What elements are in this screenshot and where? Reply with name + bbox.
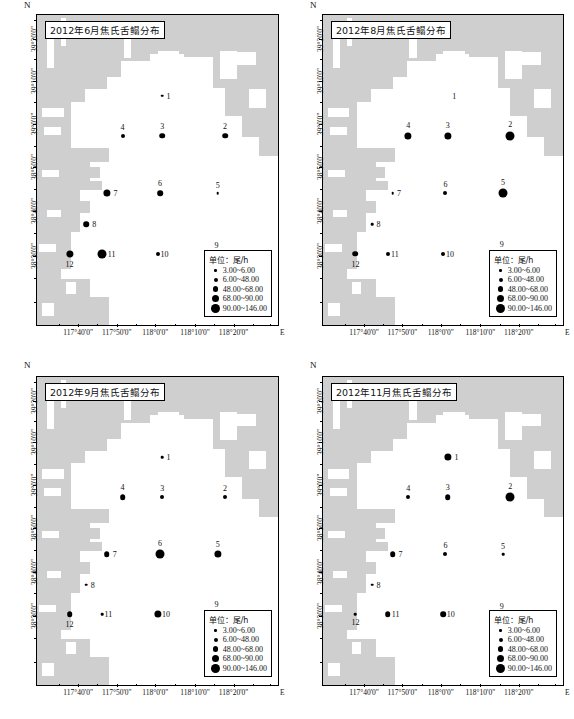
axis-tick-x — [519, 684, 520, 687]
station-dot — [66, 250, 73, 257]
water-channel — [409, 37, 416, 59]
legend-row: 6.00~48.00 — [494, 275, 552, 285]
land-mass — [347, 562, 376, 574]
axis-label-y: 39°20'0" — [316, 388, 325, 414]
axis-tick-y-minor — [320, 507, 322, 508]
station-dot — [161, 94, 164, 97]
station-dot — [386, 252, 390, 256]
axis-label-y: 39°10'0" — [30, 429, 39, 455]
station-label: 4 — [121, 483, 125, 492]
water-channel — [330, 488, 347, 496]
land-mass — [527, 116, 563, 138]
legend-label: 6.00~48.00 — [223, 635, 259, 644]
axis-tick-x-minor — [500, 324, 501, 326]
legend-row: 48.00~68.00 — [209, 285, 267, 295]
axis-tick-x — [402, 684, 403, 687]
axis-label-y: 38°50'0" — [316, 154, 325, 180]
axis-label-y: 39°0'0" — [316, 474, 325, 496]
axis-tick-y-minor — [34, 464, 36, 465]
axis-label-x: 118°20'0" — [219, 328, 249, 337]
legend-label: 3.00~6.00 — [508, 626, 540, 635]
station-dot — [506, 493, 515, 502]
land-mass — [61, 297, 109, 325]
axis-label-x: 117°50'0" — [102, 328, 132, 337]
water-channel — [330, 127, 347, 135]
axis-tick-x-minor — [460, 684, 461, 686]
legend-symbol — [494, 646, 508, 652]
axis-tick-y-minor — [34, 146, 36, 147]
legend-label: 68.00~90.00 — [223, 294, 263, 303]
axis-tick-y-minor — [320, 593, 322, 594]
axis-tick-x — [234, 324, 235, 327]
station-dot — [502, 553, 505, 556]
land-mass — [61, 657, 109, 685]
axis-tick-x-minor — [555, 324, 556, 326]
axis-label-y: 39°20'0" — [30, 26, 39, 52]
legend-symbol — [209, 646, 223, 652]
station-dot — [354, 613, 357, 616]
station-dot — [353, 251, 359, 257]
station-label: 10 — [161, 249, 169, 258]
station-label: 12 — [66, 619, 74, 628]
water-channel — [124, 37, 131, 59]
axis-label-east: E — [565, 688, 570, 697]
legend-symbol — [494, 638, 508, 642]
legend-row: 90.00~146.00 — [494, 664, 552, 674]
station-dot — [391, 192, 394, 195]
axis-tick-x-minor — [97, 324, 98, 326]
land-mass — [347, 201, 376, 213]
legend-symbol — [209, 295, 223, 302]
axis-label-x: 117°40'0" — [63, 688, 93, 697]
station-dot — [441, 252, 445, 256]
station-dot — [160, 495, 164, 499]
axis-tick-y-minor — [34, 382, 36, 383]
axis-tick-x — [364, 324, 365, 327]
land-mass — [184, 44, 213, 57]
water-channel — [42, 170, 59, 177]
axis-tick-y-minor — [34, 233, 36, 234]
station-label: 3 — [160, 484, 164, 493]
land-mass — [390, 58, 407, 77]
axis-tick-x-minor — [59, 684, 60, 686]
station-label: 10 — [446, 249, 454, 258]
axis-tick-x-minor — [270, 324, 271, 326]
legend-row: 3.00~6.00 — [494, 626, 552, 636]
axis-label-x: 117°50'0" — [388, 688, 418, 697]
station-label: 5 — [501, 541, 505, 550]
water-channel — [328, 170, 345, 177]
axis-tick-y-minor — [320, 662, 322, 663]
axis-tick-y-minor — [320, 233, 322, 234]
land-mass — [37, 436, 85, 464]
legend-row: 3.00~6.00 — [494, 266, 552, 276]
axis-label-y: 39°0'0" — [316, 113, 325, 135]
legend-symbol — [209, 655, 223, 662]
land-mass — [544, 499, 563, 517]
axis-tick-x — [441, 684, 442, 687]
water-channel — [44, 127, 61, 135]
station-label: 9 — [500, 239, 504, 248]
axis-tick-y-minor — [34, 593, 36, 594]
water-channel — [44, 488, 61, 496]
water-channel — [328, 303, 340, 315]
land-mass — [357, 509, 395, 523]
land-mass — [259, 137, 278, 156]
station-label: 2 — [508, 481, 512, 490]
station-dot — [371, 584, 374, 587]
axis-tick-y-minor — [320, 278, 322, 279]
land-mass — [357, 167, 386, 178]
land-mass — [184, 406, 213, 419]
water-channel — [328, 108, 350, 117]
axis-label-x: 118°10'0" — [466, 328, 496, 337]
axis-label-x: 118°0'0" — [142, 688, 168, 697]
axis-tick-x-minor — [214, 684, 215, 686]
legend-label: 6.00~48.00 — [508, 275, 544, 284]
station-label: 4 — [406, 484, 410, 493]
legend-symbol — [209, 638, 223, 642]
land-mass — [347, 297, 395, 325]
water-channel — [47, 210, 61, 217]
water-channel — [409, 399, 416, 421]
land-mass — [342, 220, 364, 232]
axis-label-y: 38°50'0" — [30, 515, 39, 541]
station-label: 2 — [508, 120, 512, 129]
axis-label-x: 117°40'0" — [349, 328, 379, 337]
